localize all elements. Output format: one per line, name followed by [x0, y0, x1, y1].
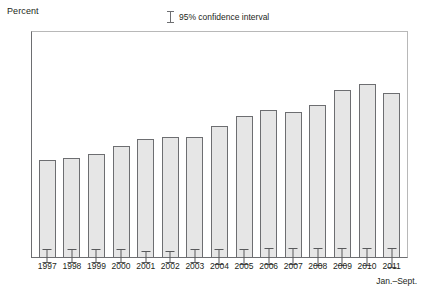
bar-chart: Percent 95% confidence interval 02468101…: [0, 0, 429, 305]
bar: [260, 110, 277, 258]
bar-slot: [133, 31, 158, 258]
x-axis-tick-label: 2003: [183, 261, 208, 275]
bar-slot: [35, 31, 60, 258]
bar-slot: [281, 31, 306, 258]
x-axis-tick-label: 2009: [330, 261, 355, 275]
bar: [162, 137, 179, 258]
bar: [88, 154, 105, 258]
bar: [186, 137, 203, 258]
bar: [309, 105, 326, 258]
bar: [359, 84, 376, 258]
x-axis-tick-label: 1998: [60, 261, 85, 275]
x-axis-tick-label: 2001: [133, 261, 158, 275]
bar: [39, 160, 56, 258]
x-axis-tick-label: 2011: [379, 261, 404, 275]
x-axis-labels: 1997199819992000200120022003200420052006…: [32, 261, 407, 275]
x-axis-tick-label: 2008: [306, 261, 331, 275]
bar: [63, 158, 80, 258]
bar-slot: [183, 31, 208, 258]
chart-legend: 95% confidence interval: [167, 11, 269, 23]
bar-slot: [60, 31, 85, 258]
bar: [236, 116, 253, 258]
x-axis-tick-label: 1999: [84, 261, 109, 275]
bar: [285, 112, 302, 258]
bar-series: [32, 31, 407, 258]
bar-slot: [256, 31, 281, 258]
bar-slot: [306, 31, 331, 258]
bar-slot: [330, 31, 355, 258]
y-axis-title: Percent: [7, 6, 39, 16]
confidence-interval-icon: [167, 11, 174, 23]
bar-slot: [355, 31, 380, 258]
bar: [334, 90, 351, 258]
bar: [383, 93, 400, 258]
x-axis-tick-label: 2000: [109, 261, 134, 275]
x-axis-tick-label: 2007: [281, 261, 306, 275]
x-axis-tick-label: 1997: [35, 261, 60, 275]
bar-slot: [207, 31, 232, 258]
x-axis-tick-label: 2005: [232, 261, 257, 275]
bar-slot: [232, 31, 257, 258]
x-axis-tick-label: 2002: [158, 261, 183, 275]
bar: [137, 139, 154, 258]
x-axis-note: Jan.–Sept.: [376, 276, 417, 286]
bar-slot: [379, 31, 404, 258]
bar-slot: [109, 31, 134, 258]
x-axis-tick-label: 2010: [355, 261, 380, 275]
legend-label-confidence-interval: 95% confidence interval: [179, 12, 269, 22]
x-axis-tick-label: 2006: [256, 261, 281, 275]
bar-slot: [158, 31, 183, 258]
x-axis-tick-label: 2004: [207, 261, 232, 275]
bar: [113, 146, 130, 258]
bar-slot: [84, 31, 109, 258]
bar: [211, 126, 228, 258]
